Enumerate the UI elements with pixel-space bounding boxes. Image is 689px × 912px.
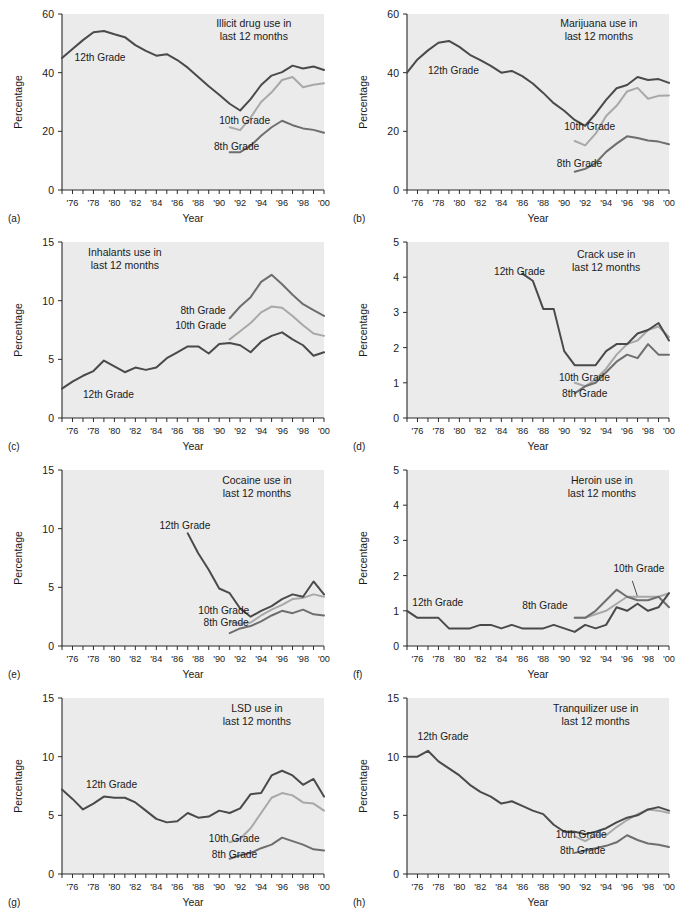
series-label-g8: 8th Grade bbox=[560, 845, 606, 856]
chart-panel-h: 051015'76'78'80'82'84'86'88'90'92'94'96'… bbox=[345, 684, 689, 912]
plot-title: Marijuana use inlast 12 months bbox=[560, 17, 637, 42]
y-tick-label: 15 bbox=[42, 464, 54, 476]
y-axis-ticks: 012345 bbox=[393, 236, 407, 424]
x-tick-label: '98 bbox=[297, 198, 309, 208]
x-tick-labels: '76'78'80'82'84'86'88'90'92'94'96'98'00 bbox=[411, 882, 675, 892]
y-tick-label: 4 bbox=[393, 271, 399, 283]
x-tick-label: '90 bbox=[213, 654, 225, 664]
x-tick-label: '98 bbox=[642, 198, 654, 208]
x-tick-label: '00 bbox=[318, 198, 330, 208]
x-tick-label: '76 bbox=[66, 654, 78, 664]
x-tick-label: '78 bbox=[432, 882, 444, 892]
x-tick-label: '84 bbox=[495, 198, 507, 208]
x-tick-label: '82 bbox=[474, 198, 486, 208]
y-tick-label: 0 bbox=[48, 184, 54, 196]
x-tick-label: '82 bbox=[129, 426, 141, 436]
chart-panel-c: 051015'76'78'80'82'84'86'88'90'92'94'96'… bbox=[0, 228, 344, 456]
x-tick-label: '88 bbox=[537, 426, 549, 436]
x-tick-label: '92 bbox=[234, 882, 246, 892]
y-tick-label: 5 bbox=[48, 353, 54, 365]
chart-panel-g: 051015'76'78'80'82'84'86'88'90'92'94'96'… bbox=[0, 684, 344, 912]
x-tick-label: '92 bbox=[579, 198, 591, 208]
series-label-g12: 12th Grade bbox=[417, 731, 468, 742]
x-tick-label: '86 bbox=[516, 198, 528, 208]
y-tick-label: 1 bbox=[393, 605, 399, 617]
y-tick-label: 10 bbox=[42, 295, 54, 307]
y-axis-title: Percentage bbox=[12, 759, 24, 813]
chart-panel-f: 012345'76'78'80'82'84'86'88'90'92'94'96'… bbox=[345, 456, 689, 684]
x-tick-label: '88 bbox=[192, 426, 204, 436]
x-tick-label: '88 bbox=[537, 882, 549, 892]
x-tick-label: '94 bbox=[600, 882, 612, 892]
y-axis-ticks: 051015 bbox=[42, 236, 62, 424]
series-label-g10: 10th Grade bbox=[175, 320, 226, 331]
x-tick-label: '94 bbox=[255, 426, 267, 436]
y-tick-label: 40 bbox=[387, 67, 399, 79]
x-tick-label: '96 bbox=[276, 882, 288, 892]
y-tick-label: 3 bbox=[393, 306, 399, 318]
series-label-g10: 10th Grade bbox=[198, 605, 249, 616]
x-tick-label: '94 bbox=[255, 882, 267, 892]
x-tick-label: '80 bbox=[453, 426, 465, 436]
y-axis-ticks: 0204060 bbox=[387, 8, 407, 196]
y-tick-label: 0 bbox=[393, 412, 399, 424]
x-tick-label: '82 bbox=[474, 654, 486, 664]
x-tick-label: '94 bbox=[600, 654, 612, 664]
plot-title: Crack use inlast 12 months bbox=[572, 248, 640, 273]
y-tick-label: 0 bbox=[393, 640, 399, 652]
x-tick-label: '80 bbox=[108, 654, 120, 664]
x-axis-title: Year bbox=[182, 440, 204, 452]
x-tick-label: '00 bbox=[663, 882, 675, 892]
x-tick-labels: '76'78'80'82'84'86'88'90'92'94'96'98'00 bbox=[66, 882, 330, 892]
x-tick-label: '78 bbox=[87, 198, 99, 208]
y-tick-label: 5 bbox=[393, 464, 399, 476]
panel-letter: (b) bbox=[353, 213, 365, 224]
x-tick-label: '94 bbox=[255, 198, 267, 208]
x-tick-label: '96 bbox=[621, 426, 633, 436]
x-tick-label: '76 bbox=[411, 198, 423, 208]
x-axis-title: Year bbox=[182, 212, 204, 224]
series-label-g10: 10th Grade bbox=[209, 833, 260, 844]
y-tick-label: 15 bbox=[42, 236, 54, 248]
x-axis-title: Year bbox=[527, 896, 549, 908]
x-tick-label: '88 bbox=[192, 882, 204, 892]
x-tick-label: '94 bbox=[600, 198, 612, 208]
series-label-g12: 12th Grade bbox=[75, 52, 126, 63]
y-tick-label: 0 bbox=[393, 868, 399, 880]
series-label-g12: 12th Grade bbox=[159, 520, 210, 531]
x-tick-label: '92 bbox=[234, 654, 246, 664]
y-axis-title: Percentage bbox=[12, 75, 24, 129]
x-axis-title: Year bbox=[527, 668, 549, 680]
x-tick-label: '00 bbox=[318, 654, 330, 664]
x-tick-label: '80 bbox=[108, 882, 120, 892]
x-axis-ticks bbox=[62, 646, 324, 650]
x-tick-label: '78 bbox=[432, 426, 444, 436]
x-tick-label: '86 bbox=[171, 882, 183, 892]
panel-letter: (f) bbox=[353, 669, 362, 680]
x-tick-label: '76 bbox=[66, 426, 78, 436]
x-tick-label: '76 bbox=[66, 198, 78, 208]
y-tick-label: 10 bbox=[42, 523, 54, 535]
x-tick-label: '98 bbox=[297, 654, 309, 664]
x-tick-label: '76 bbox=[411, 426, 423, 436]
x-tick-label: '98 bbox=[297, 882, 309, 892]
series-label-g8: 8th Grade bbox=[557, 158, 603, 169]
y-tick-label: 60 bbox=[387, 8, 399, 20]
series-label-g8: 8th Grade bbox=[212, 849, 258, 860]
series-label-g12: 12th Grade bbox=[412, 597, 463, 608]
series-label-g10: 10th Grade bbox=[613, 563, 664, 574]
y-tick-label: 20 bbox=[42, 125, 54, 137]
x-tick-label: '88 bbox=[192, 654, 204, 664]
y-tick-label: 0 bbox=[48, 640, 54, 652]
x-tick-label: '82 bbox=[474, 426, 486, 436]
x-tick-label: '84 bbox=[150, 654, 162, 664]
series-label-g10: 10th Grade bbox=[559, 372, 610, 383]
y-axis-ticks: 0204060 bbox=[42, 8, 62, 196]
plot-title: Illicit drug use inlast 12 months bbox=[216, 17, 291, 42]
x-tick-label: '92 bbox=[234, 198, 246, 208]
chart-panel-d: 012345'76'78'80'82'84'86'88'90'92'94'96'… bbox=[345, 228, 689, 456]
y-tick-label: 0 bbox=[393, 184, 399, 196]
x-tick-label: '90 bbox=[558, 426, 570, 436]
x-tick-label: '78 bbox=[432, 654, 444, 664]
x-axis-ticks bbox=[407, 874, 669, 878]
